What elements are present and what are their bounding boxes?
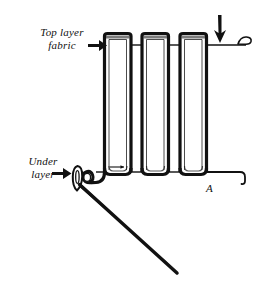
label-under-layer: Under layer bbox=[12, 155, 74, 180]
label-top-layer-fabric: Top layer fabric bbox=[26, 26, 98, 51]
label-point-a: A bbox=[206, 182, 213, 195]
